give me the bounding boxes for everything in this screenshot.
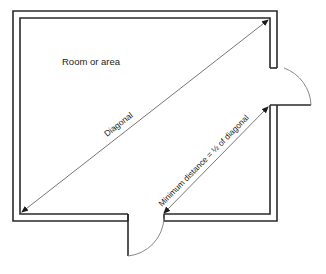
right-door xyxy=(270,68,311,105)
diagonal-arrow xyxy=(22,20,268,212)
right-door-swing-arc xyxy=(284,68,311,105)
min-distance-label: Minimum distance = ½ of diagonal xyxy=(157,113,251,208)
floor-plan-diagram: Room or area Diagonal Minimum distance =… xyxy=(0,0,326,274)
diagonal-label: Diagonal xyxy=(102,110,135,139)
bottom-door xyxy=(128,214,164,256)
room-label: Room or area xyxy=(62,56,121,67)
bottom-door-swing-arc xyxy=(128,218,164,256)
min-distance-arrow xyxy=(164,107,268,213)
wall-end-caps xyxy=(128,68,277,221)
